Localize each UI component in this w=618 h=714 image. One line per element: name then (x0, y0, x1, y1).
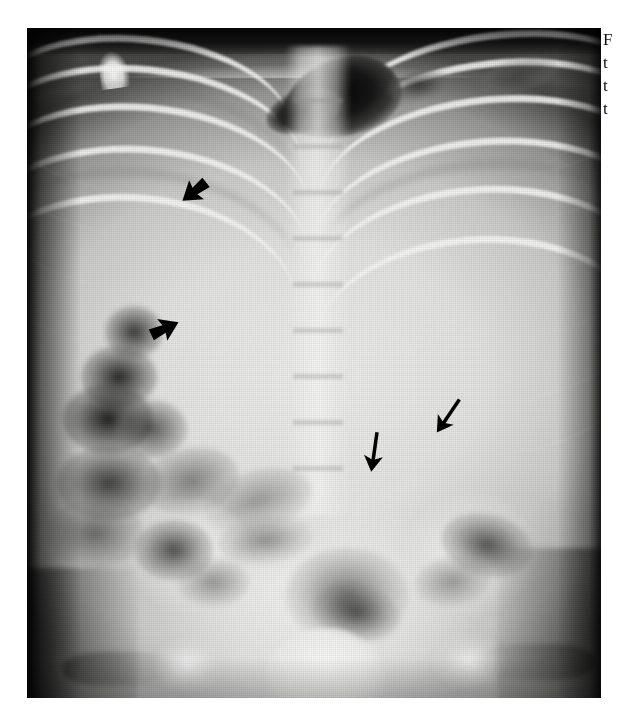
radiograph-image (27, 28, 601, 698)
vertebra-marking (293, 282, 343, 287)
lower-right-flank-shadow (497, 548, 601, 698)
lower-left-flank-shadow (27, 568, 137, 698)
vertebra-marking (293, 328, 343, 333)
vertebra-marking (293, 374, 343, 379)
figure-caption: F t t t (603, 28, 618, 120)
vertebra-marking (293, 190, 343, 195)
vertebra-marking (293, 236, 343, 241)
iliac-gas-shadow-left-2 (177, 558, 249, 606)
caption-line-4: t (603, 97, 618, 120)
figure-page: F t t t (0, 0, 618, 714)
caption-line-1: F (603, 28, 618, 51)
vertebra-marking (293, 420, 343, 425)
caption-line-2: t (603, 51, 618, 74)
vertebra-marking (293, 98, 343, 103)
vertebra-marking (293, 466, 343, 471)
vertebral-column (285, 46, 351, 516)
caption-line-3: t (603, 74, 618, 97)
vertebra-marking (293, 144, 343, 149)
